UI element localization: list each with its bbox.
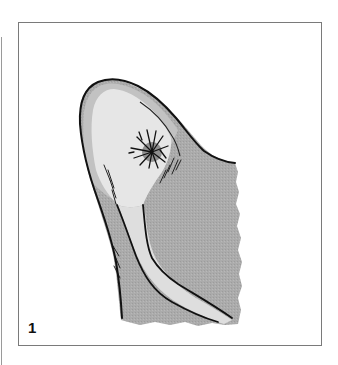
ear-illustration-icon [0,0,338,365]
figure-number-label: 1 [28,320,36,335]
